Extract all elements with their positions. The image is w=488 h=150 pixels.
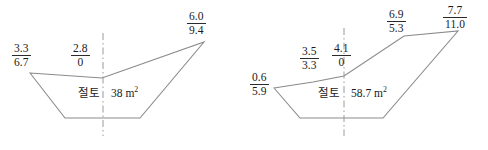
right-area-exponent: 2: [383, 85, 387, 94]
right-area-value: 58.7: [351, 87, 371, 99]
left-area-unit: m: [125, 87, 134, 99]
right-stake-left-inner-denominator: 3.3: [300, 59, 319, 72]
left-stake-left-outer-denominator: 6.7: [12, 56, 31, 69]
right-stake-label-left-inner: 3.5 3.3: [300, 45, 319, 71]
right-stake-left-inner-numerator: 3.5: [300, 45, 319, 59]
left-area-value: 38: [111, 87, 123, 99]
right-stake-center-denominator: 0: [332, 56, 351, 69]
right-area-label: 절토58.7 m2: [318, 88, 387, 100]
right-stake-left-outer-denominator: 5.9: [250, 85, 269, 98]
left-stake-center-denominator: 0: [71, 56, 90, 69]
left-area-exponent: 2: [134, 85, 138, 94]
right-area-kind: 절토: [318, 87, 340, 99]
right-stake-left-outer-numerator: 0.6: [250, 71, 269, 85]
right-stake-label-right-inner: 6.9 5.3: [387, 8, 406, 34]
left-stake-right-outer-denominator: 9.4: [187, 24, 206, 37]
left-area-kind: 절토: [78, 87, 100, 99]
right-stake-label-center: 4.1 0: [332, 42, 351, 68]
right-stake-right-outer-denominator: 11.0: [443, 18, 467, 31]
left-stake-left-outer-numerator: 3.3: [12, 42, 31, 56]
left-stake-label-right-outer: 6.0 9.4: [187, 10, 206, 36]
right-stake-right-outer-numerator: 7.7: [443, 4, 467, 18]
right-stake-label-left-outer: 0.6 5.9: [250, 71, 269, 97]
cross-section-drawing: [0, 0, 488, 150]
left-stake-label-left-outer: 3.3 6.7: [12, 42, 31, 68]
right-stake-label-right-outer: 7.7 11.0: [443, 4, 467, 30]
left-area-label: 절토38 m2: [78, 88, 138, 100]
left-section-outline: [30, 42, 204, 118]
right-stake-right-inner-denominator: 5.3: [387, 22, 406, 35]
right-stake-center-numerator: 4.1: [332, 42, 351, 56]
left-stake-center-numerator: 2.8: [71, 42, 90, 56]
right-stake-right-inner-numerator: 6.9: [387, 8, 406, 22]
left-stake-label-center: 2.8 0: [71, 42, 90, 68]
figure-canvas: 3.3 6.7 2.8 0 6.0 9.4 절토38 m2 0.6 5.9 3.…: [0, 0, 488, 150]
left-stake-right-outer-numerator: 6.0: [187, 10, 206, 24]
right-area-unit: m: [374, 87, 383, 99]
